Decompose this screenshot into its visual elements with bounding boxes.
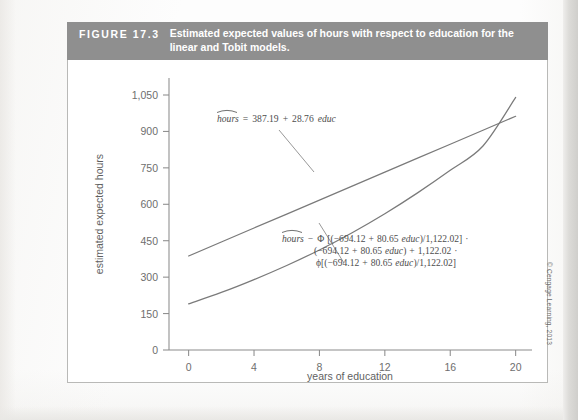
y-tick-label: 600 xyxy=(140,198,158,210)
y-tick-label: 0 xyxy=(152,344,158,356)
figure-number: FIGURE 17.3 xyxy=(79,27,160,40)
svg-text:hours=387.19+28.76educ: hours=387.19+28.76educ xyxy=(217,113,337,124)
page-left-shading xyxy=(0,0,16,420)
figure-caption-text: Estimated expected values of hours with … xyxy=(170,27,530,54)
y-axis-tick-labels: 01503004506007509001,050 xyxy=(132,89,158,356)
tobit-eq-hours-symbol: hours xyxy=(282,233,304,244)
annotation-linear-equation: hours=387.19+28.76educ xyxy=(217,110,337,124)
page-right-margin-bar xyxy=(563,0,578,420)
chart-svg: 01503004506007509001,050 048121620 hours… xyxy=(68,60,547,382)
svg-text:ϕ[(−694.12+80.65educ)/1,122.02: ϕ[(−694.12+80.65educ)/1,122.02] xyxy=(316,257,456,269)
x-tick-label: 16 xyxy=(444,361,456,373)
y-tick-label: 450 xyxy=(140,235,158,247)
y-axis-ticks xyxy=(163,95,169,350)
linear-eq-hours-symbol: hours xyxy=(217,113,239,124)
x-axis-title: years of education xyxy=(307,370,393,382)
figure-frame: 01503004506007509001,050 048121620 hours… xyxy=(67,22,548,383)
y-tick-label: 300 xyxy=(140,271,158,283)
line-series-tobit xyxy=(189,97,516,303)
plot-area: 01503004506007509001,050 048121620 hours… xyxy=(68,60,547,382)
svg-text:(−694.12+80.65educ)+1,122.02·: (−694.12+80.65educ)+1,122.02· xyxy=(314,245,458,257)
x-tick-label: 20 xyxy=(510,361,522,373)
x-tick-label: 0 xyxy=(186,361,192,373)
copyright-credit: © Cengage Learning, 2013 xyxy=(546,262,553,345)
figure-caption-bar: FIGURE 17.3 Estimated expected values of… xyxy=(67,22,548,60)
x-tick-label: 4 xyxy=(251,361,257,373)
svg-text:hours−Φ[(−694.12+80.65educ)/1,: hours−Φ[(−694.12+80.65educ)/1,122.02]· xyxy=(282,233,468,245)
y-axis-title: estimated expected hours xyxy=(93,154,105,274)
y-tick-label: 750 xyxy=(140,162,158,174)
x-axis-ticks xyxy=(189,350,516,356)
leader-line-linear xyxy=(279,130,314,172)
y-tick-label: 900 xyxy=(140,125,158,137)
page-bottom-shading xyxy=(0,406,578,420)
y-tick-label: 150 xyxy=(140,308,158,320)
annotation-tobit-equation: hours−Φ[(−694.12+80.65educ)/1,122.02]· (… xyxy=(282,230,468,269)
y-tick-label: 1,050 xyxy=(132,89,158,101)
